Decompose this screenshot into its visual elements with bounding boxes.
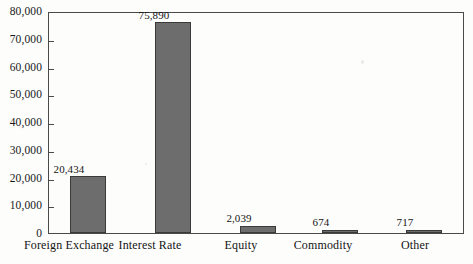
x-axis-category-label-commodity: Commodity bbox=[277, 239, 369, 252]
y-axis-tick-mark bbox=[49, 152, 54, 153]
y-axis-tick-label: 20,000 bbox=[0, 173, 42, 184]
bar-value-label: 75,890 bbox=[126, 10, 182, 21]
scan-speckle bbox=[361, 60, 364, 64]
x-axis-category-label-interest-rate: Interest Rate bbox=[99, 239, 201, 252]
bar-equity bbox=[240, 226, 276, 233]
bar-commodity bbox=[322, 230, 358, 233]
y-axis-tick-mark bbox=[49, 96, 54, 97]
y-axis-tick-label: 60,000 bbox=[0, 62, 42, 73]
bar-interest-rate bbox=[155, 22, 191, 233]
y-axis-tick-label: 30,000 bbox=[0, 145, 42, 156]
y-axis-tick-label: 10,000 bbox=[0, 200, 42, 211]
y-axis-tick-mark bbox=[49, 41, 54, 42]
bar-foreign-exchange bbox=[70, 176, 106, 233]
bar-value-label: 20,434 bbox=[41, 164, 97, 175]
bar-value-label: 674 bbox=[293, 217, 349, 228]
bar-chart: 80,000 70,000 60,000 50,000 40,000 30,00… bbox=[0, 0, 473, 264]
y-axis-tick-mark bbox=[49, 69, 54, 70]
x-axis-category-label-other: Other bbox=[369, 239, 461, 252]
bar-value-label: 717 bbox=[377, 217, 433, 228]
y-axis-tick-label: 70,000 bbox=[0, 34, 42, 45]
bar-value-label: 2,039 bbox=[211, 213, 267, 224]
bar-other bbox=[406, 230, 442, 233]
y-axis-tick-mark bbox=[49, 207, 54, 208]
y-axis-tick-label: 40,000 bbox=[0, 117, 42, 128]
y-axis-tick-label: 80,000 bbox=[0, 6, 42, 17]
y-axis-tick-label: 50,000 bbox=[0, 89, 42, 100]
y-axis-tick-mark bbox=[49, 124, 54, 125]
y-axis-tick-mark bbox=[49, 180, 54, 181]
x-axis-category-label-equity: Equity bbox=[199, 239, 283, 252]
scan-speckle bbox=[145, 163, 147, 165]
plot-area bbox=[48, 12, 464, 234]
